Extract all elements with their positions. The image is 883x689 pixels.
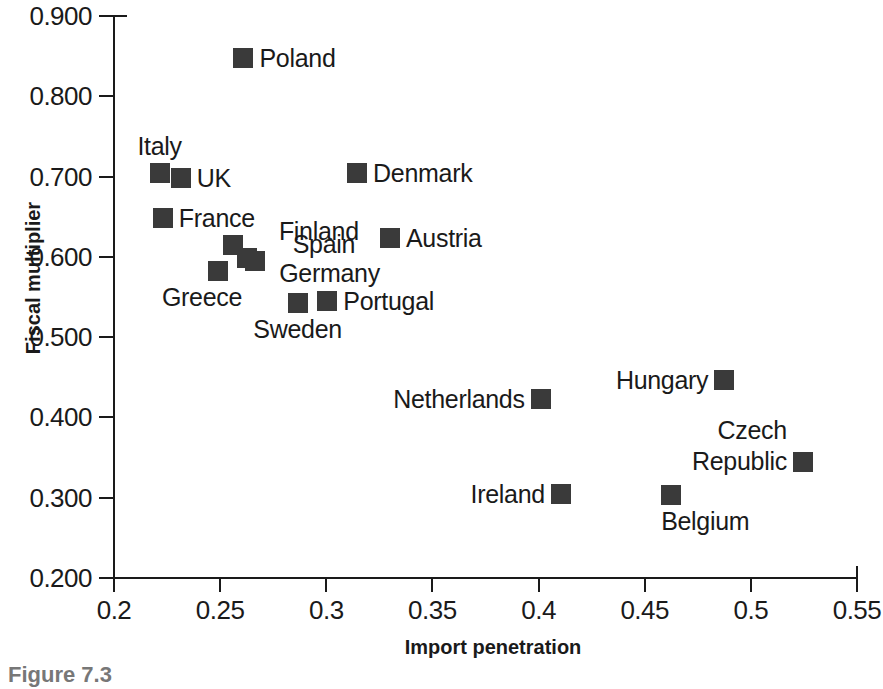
y-tick-label: 0.700	[8, 164, 92, 190]
data-point-label: Ireland	[471, 481, 545, 506]
x-tick-label: 0.5	[691, 597, 811, 623]
data-point-label: Spain	[293, 231, 355, 256]
data-point-marker[interactable]	[661, 485, 681, 505]
data-point-marker[interactable]	[317, 291, 337, 311]
y-tick-label: 0.400	[8, 404, 92, 430]
y-tick-mark	[99, 176, 114, 178]
data-point-marker[interactable]	[208, 261, 228, 281]
scatter-chart-figure: 0.9000.8000.7000.6000.5000.4000.3000.200…	[0, 0, 883, 689]
data-point-marker[interactable]	[233, 48, 253, 68]
y-tick-mark	[99, 577, 114, 579]
data-point-marker[interactable]	[793, 452, 813, 472]
x-tick-mark	[325, 579, 327, 592]
x-tick-label: 0.25	[160, 597, 280, 623]
data-point-label: Greece	[162, 285, 242, 310]
data-point-label: Sweden	[253, 317, 342, 342]
data-point-marker[interactable]	[153, 208, 173, 228]
data-point-label: Poland	[259, 45, 335, 70]
x-axis-title: Import penetration	[343, 637, 643, 657]
x-tick-label: 0.3	[266, 597, 386, 623]
y-tick-mark	[99, 256, 114, 258]
x-tick-label: 0.55	[797, 597, 883, 623]
data-point-marker[interactable]	[347, 163, 367, 183]
x-tick-mark	[219, 579, 221, 592]
data-point-label: Portugal	[343, 289, 434, 314]
data-point-label: Germany	[279, 260, 380, 285]
data-point-marker[interactable]	[380, 228, 400, 248]
x-tick-label: 0.2	[54, 597, 174, 623]
x-tick-label: 0.4	[479, 597, 599, 623]
x-tick-mark	[538, 579, 540, 592]
data-point-label: Netherlands	[393, 386, 525, 411]
y-tick-label: 0.800	[8, 83, 92, 109]
y-tick-label: 0.200	[8, 565, 92, 591]
data-point-marker[interactable]	[714, 370, 734, 390]
y-tick-label: 0.600	[8, 244, 92, 270]
data-point-label: Belgium	[661, 509, 749, 534]
y-tick-mark	[99, 497, 114, 499]
x-axis-line	[113, 577, 858, 579]
y-tick-label: 0.900	[8, 3, 92, 29]
data-point-marker[interactable]	[531, 389, 551, 409]
x-axis-right-cap	[856, 566, 858, 579]
data-point-label: Hungary	[616, 367, 708, 392]
y-axis-title: Fiscal multiplier	[23, 183, 43, 373]
x-tick-label: 0.35	[372, 597, 492, 623]
data-point-label: CzechRepublic	[692, 415, 787, 477]
y-tick-label: 0.300	[8, 485, 92, 511]
y-tick-mark	[99, 15, 114, 17]
x-tick-mark	[750, 579, 752, 592]
figure-caption: Figure 7.3	[8, 664, 112, 686]
x-tick-mark	[856, 579, 858, 592]
y-axis-line	[113, 15, 115, 579]
data-point-marker[interactable]	[288, 293, 308, 313]
data-point-marker[interactable]	[150, 163, 170, 183]
data-point-label: Denmark	[373, 161, 472, 186]
data-point-marker[interactable]	[171, 168, 191, 188]
data-point-marker[interactable]	[245, 251, 265, 271]
x-tick-mark	[431, 579, 433, 592]
data-point-label: UK	[197, 166, 231, 191]
y-tick-mark	[99, 95, 114, 97]
y-tick-label: 0.500	[8, 324, 92, 350]
data-point-label: Austria	[406, 226, 482, 251]
y-tick-mark	[99, 336, 114, 338]
y-tick-mark	[99, 416, 114, 418]
x-tick-label: 0.45	[585, 597, 705, 623]
x-tick-mark	[644, 579, 646, 592]
data-point-label: Italy	[137, 134, 181, 159]
data-point-label: France	[179, 206, 255, 231]
data-point-marker[interactable]	[551, 484, 571, 504]
x-tick-mark	[113, 579, 115, 592]
y-axis-top-cap	[113, 15, 127, 17]
